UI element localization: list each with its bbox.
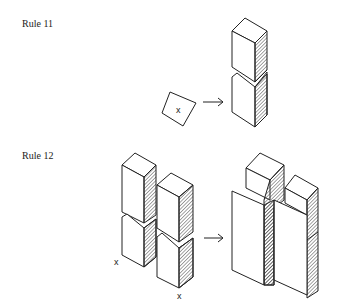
rule-11-arrow-icon xyxy=(203,98,223,106)
rule-11-x-marker: x xyxy=(176,105,181,115)
rule-12-x-marker-1: x xyxy=(114,257,119,267)
rule-12-left-column-2 xyxy=(157,173,193,288)
rule-12-left-column-1 xyxy=(122,153,156,267)
rule-11-input-square: x xyxy=(162,92,196,126)
rule-11-stack xyxy=(232,18,267,127)
rule-12-result xyxy=(232,153,318,298)
rule-12-arrow-icon xyxy=(204,234,223,242)
rule-12-x-marker-2: x xyxy=(177,291,182,301)
rule-diagrams: x xyxy=(0,0,337,308)
